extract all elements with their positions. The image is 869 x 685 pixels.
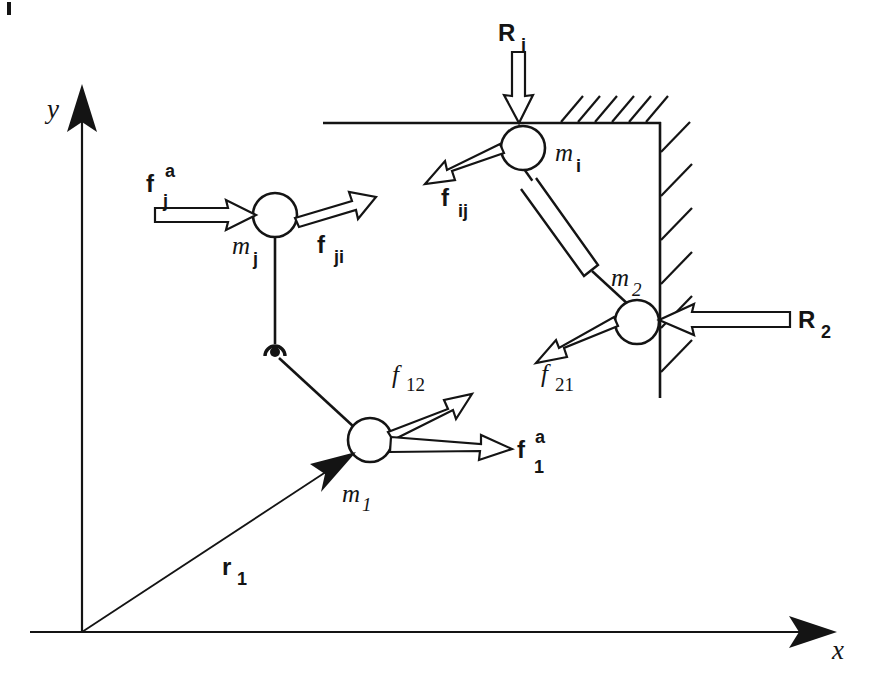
label-r1-subscript: 1 (237, 569, 247, 589)
mass-circle-mi (501, 126, 545, 170)
label-f1a-superscript: a (535, 427, 546, 447)
free-body-diagram: x y (0, 0, 869, 685)
label-m1: m 1 (342, 480, 372, 515)
label-r1: r 1 (222, 553, 247, 589)
label-fja-subscript: j (162, 191, 168, 211)
force-arrow-fja (155, 200, 256, 230)
force-arrow-f21 (536, 317, 618, 363)
reaction-arrow-Ri (504, 52, 533, 123)
x-axis-label: x (831, 635, 844, 665)
wall-hatching-right (661, 122, 692, 372)
label-R2: R 2 (798, 306, 831, 342)
label-R2-base: R (798, 306, 815, 333)
label-f12-base: f (392, 361, 402, 388)
label-m1-base: m (342, 480, 360, 507)
pin-joint-dot (270, 347, 280, 357)
position-vector-r1 (82, 452, 356, 632)
wall-hatching-top (561, 96, 668, 122)
label-mi-subscript: i (576, 156, 581, 176)
label-fji-subscript: ji (333, 247, 344, 267)
label-fji: f ji (317, 231, 344, 267)
label-m2-subscript: 2 (632, 279, 642, 300)
force-arrow-f12 (388, 394, 472, 440)
label-Ri: R i (498, 19, 526, 55)
damper-cylinder (521, 178, 598, 276)
label-mj-base: m (232, 232, 250, 259)
label-f21-base: f (541, 360, 551, 387)
label-fja-superscript: a (165, 161, 176, 181)
position-vector-r1-line (82, 464, 338, 632)
label-m2-base: m (611, 264, 629, 291)
force-arrow-fij (425, 144, 504, 184)
label-m2: m 2 (611, 264, 642, 300)
y-axis-label: y (44, 94, 59, 124)
label-Ri-base: R (498, 19, 515, 46)
label-mi: m i (555, 139, 581, 176)
force-arrow-f1a (390, 435, 512, 460)
label-fja-base: f (146, 170, 155, 197)
label-f21: f 21 (541, 360, 574, 395)
mass-circle-m2 (615, 300, 659, 344)
mass-circle-mj (253, 193, 297, 237)
link-pin-to-m1 (279, 358, 354, 427)
label-fij-base: f (441, 184, 450, 211)
label-f12-subscript: 12 (406, 374, 425, 395)
label-f1a: f a 1 (517, 427, 546, 477)
mass-circle-m1 (348, 418, 392, 462)
label-Ri-subscript: i (521, 35, 526, 55)
label-R2-subscript: 2 (821, 322, 831, 342)
label-mj: m j (232, 232, 258, 269)
figure-root: x y (0, 0, 869, 685)
scan-artifact-mark (7, 2, 11, 15)
label-f1a-subscript: 1 (534, 457, 544, 477)
label-fij: f ij (441, 184, 468, 221)
label-fij-subscript: ij (458, 201, 468, 221)
label-f12: f 12 (392, 361, 425, 395)
label-fji-base: f (317, 231, 326, 258)
label-mj-subscript: j (252, 249, 258, 269)
label-m1-subscript: 1 (362, 494, 372, 515)
label-f1a-base: f (517, 436, 526, 463)
label-r1-base: r (222, 553, 231, 580)
label-fja: f a j (146, 161, 176, 211)
force-arrow-fji (295, 192, 376, 227)
label-mi-base: m (555, 139, 573, 166)
pin-joint (265, 346, 285, 357)
label-f21-subscript: 21 (555, 374, 574, 395)
